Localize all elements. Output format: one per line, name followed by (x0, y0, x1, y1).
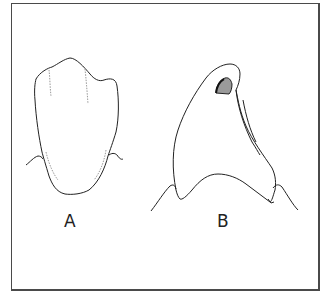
tooth-a-shading (46, 69, 106, 180)
tooth-drawings (0, 0, 327, 300)
panel-label-b: B (217, 213, 229, 230)
tooth-a-outline (26, 58, 123, 194)
panel-label-a: A (64, 213, 76, 230)
tooth-b-notch (216, 78, 232, 94)
